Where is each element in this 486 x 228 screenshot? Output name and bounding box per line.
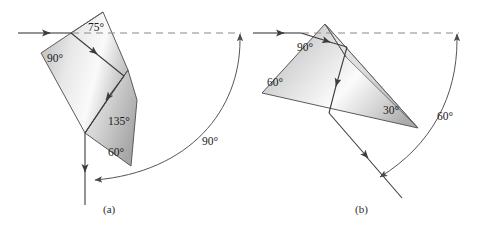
angle-label-b-60: 60° — [267, 76, 284, 88]
angle-label-b-90: 90° — [297, 41, 314, 53]
angle-label-a-60: 60° — [108, 146, 125, 158]
angle-label-a-90: 90° — [47, 52, 64, 64]
exit-ray-b-tail — [364, 154, 402, 198]
figure-root: 75° 90° 135° 60° 90° (a) — [0, 0, 486, 228]
angle-label-a-135: 135° — [108, 115, 130, 127]
panel-a: 75° 90° 135° 60° 90° (a) — [18, 12, 241, 216]
exit-ray-b — [329, 113, 368, 158]
panel-b: 90° 60° 30° 60° (b) — [253, 24, 459, 216]
deviation-label-b: 60° — [437, 110, 454, 122]
prism-diagram-svg: 75° 90° 135° 60° 90° (a) — [0, 0, 486, 228]
angle-label-b-30: 30° — [383, 104, 400, 116]
panel-caption-a: (a) — [103, 203, 116, 216]
deviation-label-a: 90° — [202, 135, 219, 147]
angle-label-a-75: 75° — [88, 21, 105, 33]
panel-caption-b: (b) — [355, 203, 368, 216]
